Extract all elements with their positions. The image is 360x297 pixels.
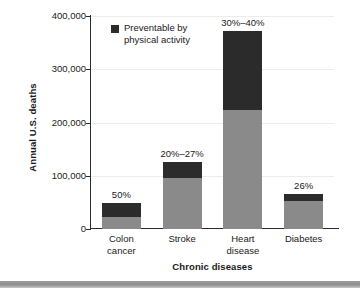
bar-group: 50% <box>102 16 141 229</box>
bar-group: 20%–27% <box>163 16 202 229</box>
plot-area: 50%20%–27%30%–40%26% <box>91 16 334 229</box>
bar-group: 26% <box>284 16 323 229</box>
bar-value-label: 30%–40% <box>221 17 264 28</box>
y-axis-tick-label: 300,000 <box>16 63 86 74</box>
bar-stack <box>284 194 323 229</box>
bar-value-label: 26% <box>294 180 313 191</box>
bar-segment-preventable <box>223 31 262 110</box>
bar-segment-remainder <box>223 110 262 229</box>
bar-value-label: 20%–27% <box>160 148 203 159</box>
legend-label-preventable: Preventable by physical activity <box>124 22 196 45</box>
bar-value-label: 50% <box>112 189 131 200</box>
bar-stack <box>163 162 202 229</box>
bar-segment-remainder <box>284 201 323 229</box>
bar-segment-remainder <box>163 178 202 229</box>
x-axis-category-label: Diabetes <box>259 233 349 245</box>
legend: Preventable by physical activity <box>111 22 196 45</box>
bar-group: 30%–40% <box>223 16 262 229</box>
y-axis-tick-label: 100,000 <box>16 170 86 181</box>
y-axis-tick-label: 200,000 <box>16 117 86 128</box>
bar-segment-preventable <box>102 203 141 216</box>
bar-segment-preventable <box>163 162 202 178</box>
bar-stack <box>223 31 262 229</box>
y-axis-tick-label: 400,000 <box>16 10 86 21</box>
y-axis-tick-mark <box>86 229 91 230</box>
bar-stack <box>102 203 141 229</box>
legend-swatch-preventable <box>111 25 119 33</box>
category-label-line: cancer <box>76 245 166 257</box>
stacked-bar-chart: Annual U.S. deaths 0100,000200,000300,00… <box>0 0 360 297</box>
x-axis-title: Chronic diseases <box>91 261 334 272</box>
category-label-line: Diabetes <box>259 233 349 245</box>
page-bottom-rule <box>0 281 360 288</box>
bar-segment-remainder <box>102 217 141 229</box>
category-label-line: disease <box>198 245 288 257</box>
